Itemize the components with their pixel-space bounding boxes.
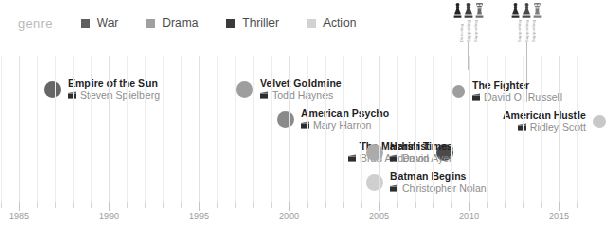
film-director: David Ayer xyxy=(402,152,453,164)
gridline xyxy=(271,56,272,202)
film-title: American Hustle xyxy=(503,109,586,121)
clapperboard-icon xyxy=(68,91,76,99)
legend-label: Action xyxy=(323,16,356,30)
gridline xyxy=(487,56,488,202)
axis-tick xyxy=(1,202,2,208)
data-point-empire-of-the-sun[interactable]: Empire of the Sun Steven Spielberg xyxy=(44,74,160,104)
clapperboard-icon xyxy=(518,123,526,131)
gridline xyxy=(433,56,434,202)
chess-pawn-icon xyxy=(464,2,473,19)
axis-tick xyxy=(325,202,326,208)
axis-tick-label: 2010 xyxy=(459,211,479,221)
square-swatch-icon xyxy=(81,19,90,28)
gridline xyxy=(451,56,452,202)
axis-tick xyxy=(397,202,398,208)
axis-tick xyxy=(469,202,470,211)
legend-item-war[interactable]: War xyxy=(81,16,119,30)
award-icon-set xyxy=(453,2,484,19)
axis-tick xyxy=(379,202,380,211)
axis-tick xyxy=(127,202,128,208)
axis-tick-label: 1985 xyxy=(9,211,29,221)
film-title: American Psycho xyxy=(301,107,389,119)
gridline xyxy=(127,56,128,202)
axis-tick xyxy=(289,202,290,211)
gridline xyxy=(379,56,380,202)
legend-title: genre xyxy=(18,16,53,31)
legend-item-drama[interactable]: Drama xyxy=(146,16,198,30)
axis-tick xyxy=(37,202,38,208)
award-label-set: Directing Supporting Supporting xyxy=(459,20,478,42)
legend-item-action[interactable]: Action xyxy=(307,16,356,30)
data-point-american-hustle[interactable]: American Hustle Ridley Scott xyxy=(503,106,606,136)
award-label: Supporting xyxy=(531,20,536,42)
axis-tick xyxy=(451,202,452,208)
film-title: Empire of the Sun xyxy=(68,77,160,89)
award-label: Supporting xyxy=(517,20,522,42)
scatter-plot-area: Empire of the Sun Steven Spielberg Velve… xyxy=(0,56,578,202)
gridline xyxy=(235,56,236,202)
gridline xyxy=(55,56,56,202)
gridline xyxy=(307,56,308,202)
clapperboard-icon xyxy=(472,93,480,101)
square-swatch-icon xyxy=(226,19,235,28)
axis-tick xyxy=(253,202,254,208)
gridline xyxy=(145,56,146,202)
chess-rook-icon xyxy=(533,2,542,19)
axis-tick xyxy=(523,202,524,208)
legend-label: War xyxy=(97,16,119,30)
gridline xyxy=(217,56,218,202)
x-axis: 1985199019952000200520102015 xyxy=(0,202,578,236)
gridline xyxy=(397,56,398,202)
genre-legend: genre War Drama Thriller Action xyxy=(0,13,578,33)
award-label: Supporting xyxy=(473,20,478,42)
gridline xyxy=(505,56,506,202)
gridline xyxy=(289,56,290,202)
axis-tick xyxy=(145,202,146,208)
gridline xyxy=(523,56,524,202)
film-title: Velvet Goldmine xyxy=(260,77,342,89)
axis-tick xyxy=(487,202,488,208)
axis-tick xyxy=(235,202,236,208)
axis-tick xyxy=(577,202,578,208)
gridline xyxy=(91,56,92,202)
gridline xyxy=(469,56,470,202)
axis-tick xyxy=(433,202,434,208)
gridline xyxy=(415,56,416,202)
data-point-american-psycho[interactable]: American Psycho Mary Harron xyxy=(277,104,389,134)
axis-tick-label: 2005 xyxy=(369,211,389,221)
genre-dot xyxy=(44,81,61,98)
legend-item-thriller[interactable]: Thriller xyxy=(226,16,279,30)
chess-pawn-icon xyxy=(453,2,462,19)
gridline xyxy=(37,56,38,202)
axis-tick xyxy=(541,202,542,208)
gridline xyxy=(325,56,326,202)
axis-tick xyxy=(73,202,74,208)
chess-rook-icon xyxy=(475,2,484,19)
genre-dot xyxy=(452,85,465,98)
gridline xyxy=(199,56,200,202)
genre-dot xyxy=(593,115,606,128)
axis-tick-label: 1990 xyxy=(99,211,119,221)
chess-pawn-icon xyxy=(522,2,531,19)
genre-dot xyxy=(366,174,383,191)
gridline xyxy=(577,56,578,202)
axis-tick-label: 1995 xyxy=(189,211,209,221)
film-title: Harsh Times xyxy=(390,140,453,152)
axis-tick xyxy=(91,202,92,208)
gridline xyxy=(361,56,362,202)
axis-tick xyxy=(109,202,110,211)
gridline xyxy=(163,56,164,202)
gridline xyxy=(181,56,182,202)
genre-dot xyxy=(277,111,294,128)
axis-tick xyxy=(55,202,56,208)
axis-tick xyxy=(415,202,416,208)
axis-tick-label: 2015 xyxy=(549,211,569,221)
award-label: Supporting xyxy=(524,20,529,42)
axis-tick xyxy=(181,202,182,208)
axis-tick xyxy=(307,202,308,208)
axis-tick xyxy=(199,202,200,211)
axis-tick xyxy=(505,202,506,208)
award-label-set: Supporting Supporting Supporting xyxy=(517,20,536,42)
axis-tick xyxy=(19,202,20,211)
gridline xyxy=(109,56,110,202)
